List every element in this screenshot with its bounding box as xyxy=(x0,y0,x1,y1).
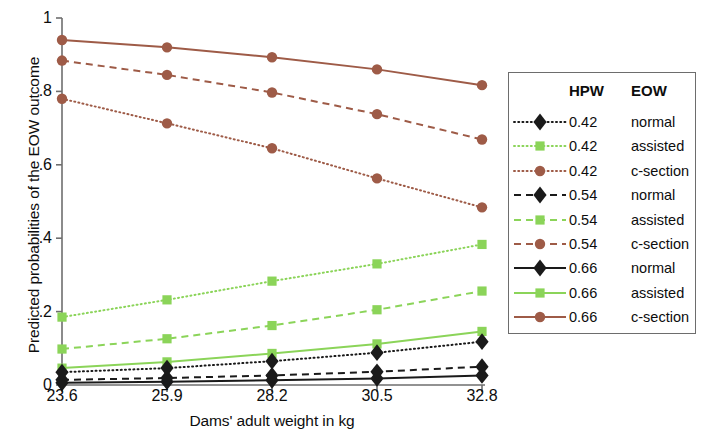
x-tick-label: 23.6 xyxy=(27,388,97,404)
legend-eow-value: normal xyxy=(631,114,675,130)
y-tick-label: .2 xyxy=(22,304,52,320)
data-point-marker xyxy=(265,353,278,370)
data-point-marker xyxy=(535,166,545,176)
data-point-marker xyxy=(477,286,486,295)
series-line xyxy=(62,291,482,349)
x-tick-label: 32.8 xyxy=(447,388,517,404)
data-point-marker xyxy=(267,87,277,97)
legend-box: HPW EOW 0.42normal0.42assisted0.42c-sect… xyxy=(508,72,696,334)
legend-swatch xyxy=(513,282,567,304)
legend-swatch-svg xyxy=(513,233,567,255)
legend-eow-value: normal xyxy=(631,187,675,203)
legend-header-eow: EOW xyxy=(631,82,667,99)
legend-swatch-svg xyxy=(513,135,567,157)
legend-swatch-svg xyxy=(513,160,567,182)
legend-hpw-value: 0.66 xyxy=(569,260,597,276)
legend-swatch xyxy=(513,111,567,133)
series-0-42-c-section xyxy=(57,94,487,213)
data-point-marker xyxy=(477,80,487,90)
data-point-marker xyxy=(372,259,381,268)
legend-hpw-value: 0.42 xyxy=(569,138,597,154)
data-point-marker xyxy=(533,260,546,277)
data-point-marker xyxy=(57,313,66,322)
data-point-marker xyxy=(535,142,544,151)
legend-item[interactable]: 0.66c-section xyxy=(509,306,695,328)
data-point-marker xyxy=(267,52,277,62)
data-point-marker xyxy=(535,288,544,297)
x-tick-label: 30.5 xyxy=(342,388,412,404)
legend-hpw-value: 0.42 xyxy=(569,163,597,179)
data-point-marker xyxy=(372,109,382,119)
legend-hpw-value: 0.54 xyxy=(569,212,597,228)
data-point-marker xyxy=(162,118,172,128)
legend-swatch xyxy=(513,209,567,231)
figure-canvas: Predicted probabilities of the EOW outco… xyxy=(0,0,701,436)
y-tick-label: .4 xyxy=(22,230,52,246)
y-tick-label: 1 xyxy=(22,10,52,26)
series-line xyxy=(62,61,482,140)
legend-swatch-svg xyxy=(513,184,567,206)
legend-eow-value: c-section xyxy=(631,236,689,252)
series-0-54-assisted xyxy=(57,286,486,353)
legend-eow-value: assisted xyxy=(631,212,684,228)
data-point-marker xyxy=(57,55,67,65)
series-0-66-c-section xyxy=(57,35,487,91)
data-point-marker xyxy=(162,334,171,343)
series-line xyxy=(62,40,482,85)
data-point-marker xyxy=(162,70,172,80)
legend-swatch-svg xyxy=(513,111,567,133)
legend-item[interactable]: 0.42c-section xyxy=(509,160,695,182)
data-point-marker xyxy=(370,344,383,361)
legend-item[interactable]: 0.54c-section xyxy=(509,233,695,255)
legend-swatch xyxy=(513,135,567,157)
legend-hpw-value: 0.54 xyxy=(569,236,597,252)
legend-hpw-value: 0.54 xyxy=(569,187,597,203)
data-point-marker xyxy=(535,215,544,224)
legend-swatch-svg xyxy=(513,282,567,304)
data-point-marker xyxy=(475,358,488,375)
data-point-marker xyxy=(477,240,486,249)
legend-item[interactable]: 0.54assisted xyxy=(509,209,695,231)
data-point-marker xyxy=(267,321,276,330)
x-tick-label: 28.2 xyxy=(237,388,307,404)
legend-eow-value: assisted xyxy=(631,138,684,154)
data-point-marker xyxy=(57,344,66,353)
legend-swatch xyxy=(513,233,567,255)
x-tick-label: 25.9 xyxy=(132,388,202,404)
legend-swatch xyxy=(513,257,567,279)
legend-item[interactable]: 0.66assisted xyxy=(509,282,695,304)
legend-swatch-svg xyxy=(513,306,567,328)
data-point-marker xyxy=(372,64,382,74)
data-point-marker xyxy=(162,42,172,52)
legend-swatch xyxy=(513,160,567,182)
legend-swatch-svg xyxy=(513,257,567,279)
data-point-marker xyxy=(267,143,277,153)
data-point-marker xyxy=(267,277,276,286)
legend-item[interactable]: 0.54normal xyxy=(509,184,695,206)
data-point-marker xyxy=(162,295,171,304)
data-point-marker xyxy=(535,239,545,249)
data-point-marker xyxy=(57,35,67,45)
x-axis-title: Dams' adult weight in kg xyxy=(62,412,482,430)
y-tick-label: .6 xyxy=(22,157,52,173)
plot-area: 0.2.4.6.81 23.625.928.230.532.8 xyxy=(0,0,520,400)
legend-item[interactable]: 0.42assisted xyxy=(509,135,695,157)
data-point-marker xyxy=(477,202,487,212)
legend-eow-value: c-section xyxy=(631,309,689,325)
data-point-marker xyxy=(535,312,545,322)
legend-swatch-svg xyxy=(513,209,567,231)
plot-svg xyxy=(0,0,520,400)
legend-hpw-value: 0.66 xyxy=(569,285,597,301)
legend-hpw-value: 0.42 xyxy=(569,114,597,130)
legend-eow-value: assisted xyxy=(631,285,684,301)
data-point-marker xyxy=(533,114,546,131)
data-point-marker xyxy=(372,173,382,183)
legend-item[interactable]: 0.42normal xyxy=(509,111,695,133)
data-point-marker xyxy=(57,94,67,104)
legend-item[interactable]: 0.66normal xyxy=(509,257,695,279)
y-tick-label: .8 xyxy=(22,83,52,99)
legend-eow-value: c-section xyxy=(631,163,689,179)
legend-swatch xyxy=(513,306,567,328)
data-point-marker xyxy=(477,134,487,144)
legend-swatch xyxy=(513,184,567,206)
